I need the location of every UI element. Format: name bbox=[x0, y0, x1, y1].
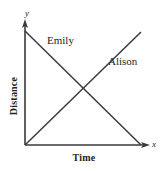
x-axis-symbol-label: x bbox=[152, 140, 156, 149]
plot-area bbox=[0, 0, 164, 171]
alison-series-label: Alison bbox=[108, 56, 137, 67]
y-axis-symbol-label: y bbox=[25, 9, 29, 18]
y-axis-title: Distance bbox=[9, 65, 19, 127]
x-axis-title: Time bbox=[25, 153, 143, 163]
emily-series-label: Emily bbox=[47, 35, 74, 46]
distance-time-graph-figure: — — —— — —— —— —— y x Emily Alison Dista… bbox=[0, 0, 164, 171]
